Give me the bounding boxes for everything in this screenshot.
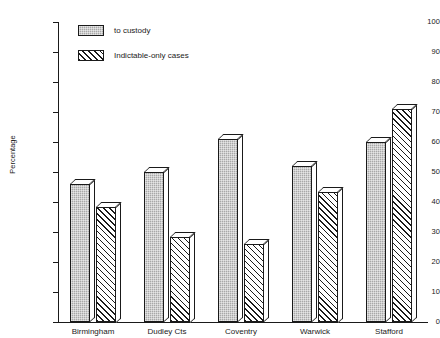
bar-birmingham-indictable-only-cases	[96, 207, 116, 323]
x-axis-line	[58, 322, 428, 323]
bar-side-face	[190, 232, 195, 322]
bar-warwick-indictable-only-cases	[318, 192, 338, 323]
bar-face	[292, 166, 312, 322]
bar-side-face	[338, 187, 343, 322]
bar-stafford-indictable-only-cases	[392, 109, 412, 322]
bar-face	[170, 237, 190, 323]
bar-side-face	[312, 161, 317, 322]
x-axis-label-stafford: Stafford	[346, 327, 432, 336]
bar-side-face	[164, 167, 169, 322]
bar-dudley-cts-to-custody	[144, 172, 164, 322]
bar-birmingham-to-custody	[70, 184, 90, 322]
bar-warwick-to-custody	[292, 166, 312, 322]
bar-face	[366, 142, 386, 322]
bar-side-face	[238, 134, 243, 322]
bar-face	[218, 139, 238, 322]
bar-group	[144, 22, 190, 322]
bar-group	[218, 22, 264, 322]
y-tick-mark	[53, 322, 58, 323]
bar-face	[70, 184, 90, 322]
y-axis-title: Percentage	[8, 119, 17, 191]
bar-face	[318, 192, 338, 323]
bar-side-face	[116, 202, 121, 322]
bar-face	[144, 172, 164, 322]
bar-side-face	[386, 137, 391, 322]
bar-group	[292, 22, 338, 322]
bar-face	[392, 109, 412, 322]
bar-face	[244, 244, 264, 322]
bar-coventry-to-custody	[218, 139, 238, 322]
bar-side-face	[412, 104, 417, 322]
plot-area	[58, 22, 428, 322]
bar-face	[96, 207, 116, 323]
bar-dudley-cts-indictable-only-cases	[170, 237, 190, 323]
bar-side-face	[264, 239, 269, 322]
bar-coventry-indictable-only-cases	[244, 244, 264, 322]
bar-stafford-to-custody	[366, 142, 386, 322]
bar-group	[70, 22, 116, 322]
bar-side-face	[90, 179, 95, 322]
bar-group	[366, 22, 412, 322]
bar-chart: Percentage 0102030405060708090100 to cus…	[0, 0, 440, 338]
